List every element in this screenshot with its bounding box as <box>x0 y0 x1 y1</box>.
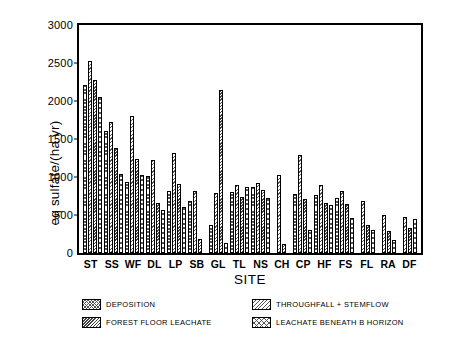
bar <box>266 198 270 253</box>
bar <box>172 153 176 253</box>
bar <box>340 191 344 253</box>
bar <box>408 228 412 253</box>
bar <box>188 201 192 253</box>
bar-group <box>104 25 123 253</box>
bar <box>235 185 239 253</box>
bar-group <box>146 25 165 253</box>
legend-label: THROUGHFALL + STEMFLOW <box>276 300 389 309</box>
bar <box>177 184 181 253</box>
bar <box>151 160 155 253</box>
bar <box>161 210 165 253</box>
bar <box>214 193 218 253</box>
bar-group <box>209 25 228 253</box>
bar <box>230 192 234 253</box>
bar <box>125 182 129 253</box>
bar <box>329 205 333 253</box>
y-axis-tick-label: 1500 <box>48 134 73 145</box>
legend-item: THROUGHFALL + STEMFLOW <box>252 299 412 310</box>
bar <box>366 225 370 253</box>
legend-swatch-icon <box>252 317 271 328</box>
y-axis-tick-label: 1000 <box>48 172 73 183</box>
legend-swatch-icon <box>252 299 271 310</box>
legend-label: DEPOSITION <box>106 300 155 309</box>
bar <box>387 231 391 253</box>
bar-group <box>335 25 354 253</box>
y-axis-tick-label: 3000 <box>48 20 73 31</box>
bar <box>277 175 281 253</box>
bar <box>130 116 134 253</box>
bar <box>88 61 92 253</box>
bar <box>198 239 202 253</box>
bar <box>361 201 365 253</box>
bar <box>146 176 150 253</box>
bar <box>308 230 312 253</box>
bar-group <box>188 25 207 253</box>
bar <box>156 203 160 253</box>
bar <box>382 215 386 253</box>
legend-swatch-icon <box>82 317 101 328</box>
bar <box>240 197 244 253</box>
bar <box>104 131 108 253</box>
bar-group <box>293 25 312 253</box>
bar <box>93 80 97 253</box>
bar-group <box>377 25 396 253</box>
bar <box>251 187 255 253</box>
bar <box>371 230 375 253</box>
bar <box>335 198 339 253</box>
bar <box>314 195 318 253</box>
bar <box>135 159 139 253</box>
bar-group <box>125 25 144 253</box>
bar <box>209 225 213 253</box>
bar <box>182 207 186 253</box>
legend-item: LEACHATE BENEATH B HORIZON <box>252 317 412 328</box>
bar-group <box>398 25 417 253</box>
legend-label: LEACHATE BENEATH B HORIZON <box>276 318 404 327</box>
bar <box>350 218 354 253</box>
y-axis-tick-label: 0 <box>67 248 73 259</box>
x-axis-label: SITE <box>77 272 423 287</box>
bar <box>114 148 118 253</box>
bar <box>282 244 286 253</box>
bar <box>403 217 407 253</box>
bar-group <box>314 25 333 253</box>
bar <box>245 187 249 253</box>
chart-figure: eq sulfate/(ha yr) 050010001500200025003… <box>0 0 451 346</box>
bar <box>261 190 265 253</box>
bar <box>193 191 197 253</box>
bar-group <box>230 25 249 253</box>
legend-item: DEPOSITION <box>82 299 242 310</box>
bar-group <box>167 25 186 253</box>
bar <box>293 194 297 253</box>
bar <box>324 203 328 253</box>
bar <box>109 122 113 253</box>
bar <box>167 191 171 253</box>
legend-label: FOREST FLOOR LEACHATE <box>106 318 212 327</box>
bar <box>345 204 349 253</box>
bar-group <box>272 25 291 253</box>
bar <box>98 97 102 253</box>
bar <box>119 174 123 253</box>
bar-group <box>83 25 102 253</box>
bar <box>413 219 417 253</box>
plot-area: 050010001500200025003000 <box>77 23 423 255</box>
bar <box>319 185 323 253</box>
y-axis-tick-label: 2500 <box>48 58 73 69</box>
bar <box>83 85 87 253</box>
bar-series-container <box>79 25 421 253</box>
bar <box>256 183 260 253</box>
bar <box>392 240 396 253</box>
legend-swatch-icon <box>82 299 101 310</box>
y-axis-tick-label: 500 <box>54 210 73 221</box>
bar-group <box>251 25 270 253</box>
y-axis-tick-label: 2000 <box>48 96 73 107</box>
chart-legend: DEPOSITIONTHROUGHFALL + STEMFLOWFOREST F… <box>82 299 412 328</box>
bar <box>298 155 302 253</box>
bar <box>140 175 144 253</box>
bar <box>219 90 223 253</box>
bar-group <box>356 25 375 253</box>
bar <box>224 243 228 253</box>
legend-item: FOREST FLOOR LEACHATE <box>82 317 242 328</box>
bar <box>303 199 307 253</box>
